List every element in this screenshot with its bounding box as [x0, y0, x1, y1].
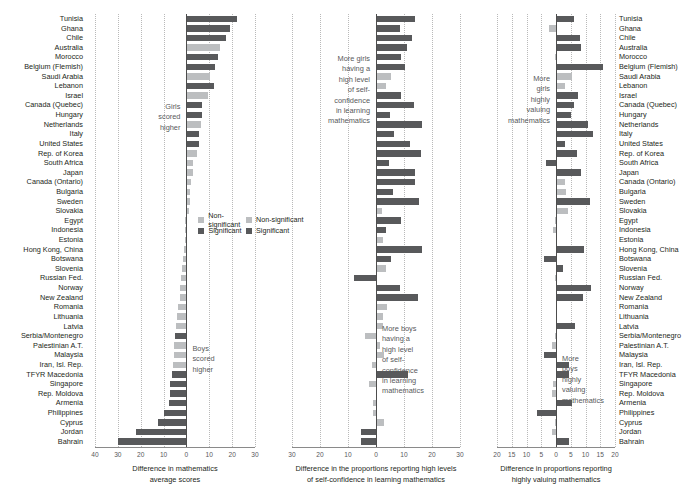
bar-israel — [186, 92, 208, 98]
country-label-rep-moldova: Rep. Moldova — [0, 389, 86, 399]
country-label-netherlands: Netherlands — [0, 120, 86, 130]
country-label-indonesia: Indonesia — [616, 225, 700, 235]
bar-chile — [186, 35, 226, 41]
bar-row — [95, 379, 255, 389]
bar-singapore — [170, 381, 186, 387]
country-label-united-states: United States — [616, 139, 700, 149]
legend-label: Significant — [208, 226, 241, 235]
country-label-italy: Italy — [616, 129, 700, 139]
bar-netherlands — [376, 121, 422, 127]
country-label-ghana: Ghana — [0, 24, 86, 34]
bar-iran-isl-rep — [173, 362, 187, 368]
bar-hungary — [376, 112, 390, 118]
bar-slovenia — [376, 265, 386, 271]
panel-math-scores: 403020100102030Difference in mathematics… — [95, 14, 255, 447]
country-label-bahrain: Bahrain — [0, 437, 86, 447]
bar-row — [95, 350, 255, 360]
bar-row — [95, 293, 255, 303]
country-label-rep-of-korea: Rep. of Korea — [616, 149, 700, 159]
bar-israel — [376, 92, 401, 98]
bar-chile — [376, 35, 412, 41]
bar-tfyr-macedonia — [172, 371, 187, 377]
country-label-estonia: Estonia — [616, 235, 700, 245]
country-label-canada-ontario: Canada (Ontario) — [616, 177, 700, 187]
bar-row — [95, 62, 255, 72]
country-label-romania: Romania — [0, 302, 86, 312]
legend-swatch — [246, 228, 252, 234]
annotation-top: More girls having a high level of self- … — [328, 54, 370, 127]
country-label-chile: Chile — [0, 33, 86, 43]
bar-new-zealand — [180, 294, 187, 300]
bar-row — [95, 322, 255, 332]
bar-bulgaria — [556, 189, 566, 195]
bar-cyprus — [376, 419, 384, 425]
x-tick-label: 30 — [114, 451, 121, 458]
country-label-column-right: TunisiaGhanaChileAustraliaMoroccoBelgium… — [616, 14, 700, 446]
bar-canada-quebec — [186, 102, 202, 108]
zero-line — [556, 14, 557, 447]
country-label-malaysia: Malaysia — [616, 350, 700, 360]
bar-south-africa — [376, 160, 389, 166]
bar-palestinian-a-t — [174, 342, 187, 348]
x-axis-caption: Difference in proportions reporting high… — [497, 464, 615, 485]
bar-row — [95, 72, 255, 82]
bar-saudi-arabia — [556, 73, 572, 79]
panel-self-confidence: 3020100102030Difference in the proportio… — [292, 14, 460, 447]
bar-row — [95, 360, 255, 370]
country-label-belgium-flemish: Belgium (Flemish) — [616, 62, 700, 72]
x-tick-label: 30 — [251, 451, 258, 458]
legend-swatch — [198, 217, 204, 223]
bar-canada-ontario — [556, 179, 565, 185]
bar-row — [95, 187, 255, 197]
bar-hungary — [556, 112, 571, 118]
bar-row — [95, 197, 255, 207]
bar-belgium-flemish — [556, 64, 603, 70]
zero-line — [186, 14, 187, 447]
bar-estonia — [376, 237, 383, 243]
x-axis-caption: Difference in the proportions reporting … — [292, 464, 460, 485]
country-label-morocco: Morocco — [616, 52, 700, 62]
country-label-japan: Japan — [0, 168, 86, 178]
country-label-palestinian-a-t: Palestinian A.T. — [616, 341, 700, 351]
country-label-new-zealand: New Zealand — [0, 293, 86, 303]
bar-lithuania — [376, 313, 383, 319]
country-label-canada-quebec: Canada (Quebec) — [616, 100, 700, 110]
bar-norway — [180, 285, 187, 291]
bar-serbia-montenegro — [365, 333, 376, 339]
bar-romania — [178, 304, 186, 310]
bar-saudi-arabia — [376, 73, 391, 79]
gridline — [460, 14, 462, 447]
country-label-latvia: Latvia — [616, 322, 700, 332]
bar-row — [95, 254, 255, 264]
country-label-column-left: TunisiaGhanaChileAustraliaMoroccoBelgium… — [0, 14, 86, 446]
bar-row — [95, 418, 255, 428]
country-label-iran-isl-rep: Iran, Isl. Rep. — [616, 360, 700, 370]
bar-row — [95, 158, 255, 168]
country-label-israel: Israel — [0, 91, 86, 101]
bar-indonesia — [376, 227, 386, 233]
legend-item: Non-significant — [246, 214, 304, 225]
legend-item: Significant — [246, 225, 304, 236]
bar-slovenia — [556, 265, 563, 271]
bar-row — [95, 235, 255, 245]
bar-row — [95, 139, 255, 149]
country-label-philippines: Philippines — [616, 408, 700, 418]
country-label-jordan: Jordan — [0, 427, 86, 437]
bar-rep-moldova — [170, 390, 186, 396]
x-axis-ticks: 3020100102030 — [292, 451, 460, 463]
x-axis-line — [292, 447, 460, 448]
bar-italy — [186, 131, 199, 137]
country-label-armenia: Armenia — [616, 398, 700, 408]
bar-latvia — [556, 323, 575, 329]
bar-netherlands — [186, 121, 201, 127]
country-label-bulgaria: Bulgaria — [0, 187, 86, 197]
country-label-bahrain: Bahrain — [616, 437, 700, 447]
country-label-morocco: Morocco — [0, 52, 86, 62]
bar-row — [95, 427, 255, 437]
country-label-tfyr-macedonia: TFYR Macedonia — [0, 370, 86, 380]
country-label-tunisia: Tunisia — [0, 14, 86, 24]
x-tick-label: 5 — [539, 451, 543, 458]
country-label-slovenia: Slovenia — [0, 264, 86, 274]
legend: Non-significantSignificant — [246, 214, 304, 236]
bar-row — [95, 168, 255, 178]
